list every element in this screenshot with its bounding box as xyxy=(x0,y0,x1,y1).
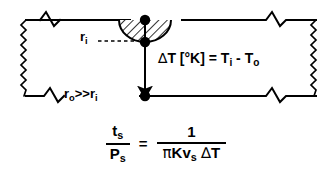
equation-left-fraction: ts Ps xyxy=(106,122,130,167)
t-outer-sub: o xyxy=(253,57,259,68)
boundary-top-break-left xyxy=(26,12,130,26)
boundary-right-edge xyxy=(311,20,316,96)
equation-left-numerator: ts xyxy=(108,122,127,143)
equation-right-denominator: πKvs ∆T xyxy=(157,144,227,165)
equation-equals-sign: = xyxy=(139,135,148,153)
equation-right-fraction: 1 πKvs ∆T xyxy=(157,123,227,165)
equation-pi-symbol: π xyxy=(163,144,172,162)
delta-t-letter: T xyxy=(167,50,176,66)
delta-t-units: [°K] xyxy=(180,50,205,66)
node-bottom xyxy=(140,91,150,101)
equation-v-main: v xyxy=(182,144,190,161)
equation-t-symbol: T xyxy=(211,144,220,161)
equation-v-sub: s xyxy=(191,151,197,163)
label-relation-inner-sub: i xyxy=(95,93,98,103)
label-relation-operator: >> xyxy=(75,86,90,101)
equation-ps-sub: s xyxy=(120,152,126,164)
t-minus-operator: - xyxy=(236,50,241,66)
node-source-center xyxy=(140,37,150,47)
label-radius-relation: ro>>ri xyxy=(64,87,98,103)
delta-t-equals: = xyxy=(209,50,217,66)
label-inner-radius: ri xyxy=(80,30,88,46)
equation-k-symbol: K xyxy=(172,144,183,161)
equation-right-numerator: 1 xyxy=(181,123,201,142)
equation-ps-main: P xyxy=(110,145,120,162)
t-outer-main: T xyxy=(245,50,254,66)
equation-delta-symbol: ∆ xyxy=(201,144,211,162)
governing-equation: ts Ps = 1 πKvs ∆T xyxy=(0,122,332,167)
node-top xyxy=(140,15,150,25)
label-delta-t-definition: ∆T [°K] = Ti - To xyxy=(158,51,259,68)
figure-canvas: ri ro>>ri ∆T [°K] = Ti - To ts Ps = 1 πK… xyxy=(0,0,332,183)
equation-ts-sub: s xyxy=(117,129,123,141)
delta-symbol: ∆ xyxy=(158,50,167,66)
boundary-left-edge xyxy=(21,20,26,96)
equation-left-denominator: Ps xyxy=(106,145,130,166)
label-inner-radius-sub: i xyxy=(85,36,88,46)
t-inner-sub: i xyxy=(229,57,232,68)
